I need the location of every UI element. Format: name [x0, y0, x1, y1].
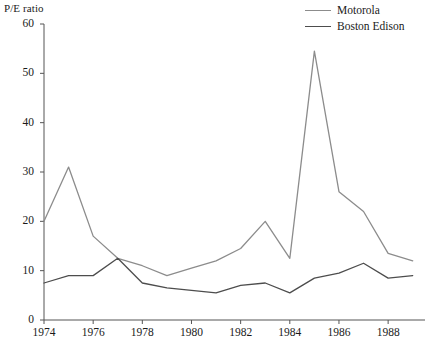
- x-tick-label: 1978: [120, 327, 164, 338]
- y-tick-label: 50: [6, 67, 34, 78]
- y-tick-label: 60: [6, 18, 34, 29]
- x-tick-label: 1982: [219, 327, 263, 338]
- pe-ratio-line-chart: P/E ratio Motorola Boston Edison 0102030…: [0, 0, 433, 347]
- y-tick-label: 40: [6, 117, 34, 128]
- x-tick-label: 1988: [366, 327, 410, 338]
- x-tick-label: 1980: [169, 327, 213, 338]
- x-tick-label: 1986: [317, 327, 361, 338]
- y-tick-label: 0: [6, 314, 34, 325]
- x-tick-label: 1984: [268, 327, 312, 338]
- y-tick-label: 30: [6, 166, 34, 177]
- y-tick-label: 10: [6, 265, 34, 276]
- x-tick-label: 1974: [22, 327, 66, 338]
- series-line-motorola: [44, 51, 413, 275]
- plot-area: [0, 0, 433, 347]
- x-tick-label: 1976: [71, 327, 115, 338]
- series-line-boston-edison: [44, 258, 413, 293]
- y-tick-label: 20: [6, 215, 34, 226]
